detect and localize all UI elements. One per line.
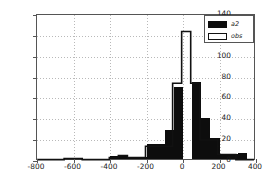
y-tick-mark (33, 57, 37, 58)
x-tick-label: 0 (167, 163, 197, 170)
legend-label-obs: obs (231, 33, 242, 39)
y-tick-label: 40 (222, 114, 231, 121)
legend-item-a2: a2 (208, 19, 251, 30)
filled-swatch-icon (208, 21, 227, 28)
x-tick-label: 400 (240, 163, 270, 170)
chart-legend: a2 obs (204, 15, 254, 43)
legend-item-obs: obs (208, 31, 251, 42)
y-tick-label: 80 (222, 73, 231, 80)
y-tick-mark (33, 36, 37, 37)
y-tick-label: 60 (222, 93, 231, 100)
histogram-figure: 020406080100120140-800-600-400-200020040… (0, 0, 270, 182)
outline-swatch-icon (208, 33, 227, 40)
y-tick-mark (33, 78, 37, 79)
legend-label-a2: a2 (231, 21, 239, 27)
y-tick-mark (33, 119, 37, 120)
y-tick-mark (33, 140, 37, 141)
x-tick-label: 200 (204, 163, 234, 170)
y-tick-mark (33, 98, 37, 99)
y-tick-label: 20 (222, 135, 231, 142)
x-tick-label: -600 (58, 163, 88, 170)
y-tick-label: 100 (217, 52, 231, 59)
x-tick-label: -400 (94, 163, 124, 170)
x-tick-label: -800 (21, 163, 51, 170)
x-tick-label: -200 (131, 163, 161, 170)
y-tick-mark (33, 15, 37, 16)
